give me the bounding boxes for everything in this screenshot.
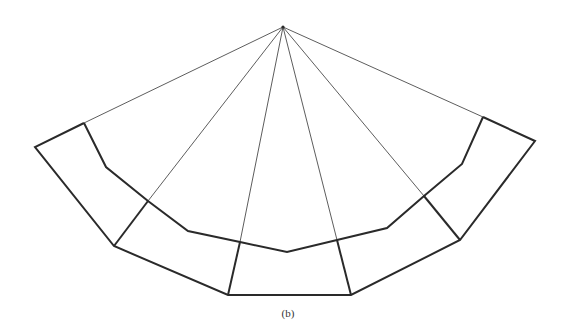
inner-arc-polyline	[84, 117, 483, 252]
apex-point	[281, 25, 284, 28]
radial-line	[240, 27, 283, 242]
band-divider-line	[114, 201, 148, 246]
figure-caption: (b)	[0, 307, 562, 319]
band-divider-line	[424, 196, 460, 240]
band-divider-line	[337, 240, 351, 295]
outer-boundary	[35, 117, 535, 295]
radial-lines	[84, 27, 483, 242]
band-divider-line	[228, 242, 240, 295]
radial-line	[283, 27, 483, 117]
radial-line	[84, 27, 283, 123]
radial-line	[148, 27, 283, 201]
cone-development-diagram	[0, 0, 562, 336]
